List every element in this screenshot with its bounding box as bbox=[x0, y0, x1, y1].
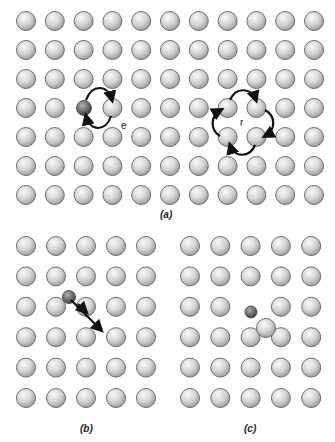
ring-arrow-top-icon bbox=[230, 90, 256, 100]
lattice-atom bbox=[107, 328, 126, 347]
lattice-atom bbox=[74, 41, 93, 60]
lattice-atom bbox=[305, 186, 324, 205]
lattice-atom bbox=[77, 237, 96, 256]
lattice-atom bbox=[132, 70, 151, 89]
lattice-atom bbox=[161, 99, 180, 118]
lattice-atom bbox=[181, 389, 200, 408]
lattice-atom bbox=[137, 297, 156, 316]
lattice-atom bbox=[161, 128, 180, 147]
lattice-atom bbox=[47, 358, 66, 377]
substitutional-solute-atom bbox=[245, 306, 257, 318]
self-interstitial-atom bbox=[257, 319, 276, 338]
lattice-atom bbox=[107, 297, 126, 316]
lattice-atom bbox=[132, 41, 151, 60]
lattice-atom bbox=[181, 237, 200, 256]
lattice-atom bbox=[77, 267, 96, 286]
lattice-atom bbox=[77, 389, 96, 408]
lattice-atom bbox=[247, 157, 266, 176]
lattice-atom bbox=[47, 328, 66, 347]
lattice-atom bbox=[74, 186, 93, 205]
lattice-atom bbox=[302, 358, 321, 377]
lattice-atom bbox=[17, 70, 36, 89]
lattice-atom bbox=[276, 12, 295, 31]
lattice-atom bbox=[132, 128, 151, 147]
lattice-atom bbox=[211, 328, 230, 347]
lattice-atom bbox=[211, 267, 230, 286]
panel-c-label: (c) bbox=[244, 423, 257, 434]
lattice-atom bbox=[305, 128, 324, 147]
lattice-atom bbox=[17, 328, 36, 347]
lattice-atom bbox=[218, 70, 237, 89]
lattice-atom bbox=[137, 267, 156, 286]
lattice-atom bbox=[181, 358, 200, 377]
lattice-atom bbox=[218, 186, 237, 205]
lattice-atom bbox=[137, 237, 156, 256]
lattice-atom bbox=[218, 157, 237, 176]
lattice-atom bbox=[47, 237, 66, 256]
lattice-atom bbox=[45, 12, 64, 31]
lattice-atom bbox=[247, 41, 266, 60]
lattice-atom bbox=[211, 237, 230, 256]
panel-a-label: (a) bbox=[160, 209, 173, 220]
lattice-atom bbox=[302, 328, 321, 347]
lattice-atom bbox=[103, 99, 122, 118]
lattice-atom bbox=[45, 99, 64, 118]
lattice-atom bbox=[271, 297, 290, 316]
lattice-atom bbox=[241, 358, 260, 377]
lattice-atom bbox=[17, 358, 36, 377]
lattice-atom bbox=[189, 41, 208, 60]
lattice-atom bbox=[241, 267, 260, 286]
solute-atom bbox=[77, 101, 92, 116]
lattice-atom bbox=[218, 99, 237, 118]
lattice-atom bbox=[107, 267, 126, 286]
lattice-atom bbox=[17, 128, 36, 147]
lattice-atom bbox=[17, 41, 36, 60]
lattice-atom bbox=[103, 41, 122, 60]
lattice-atom bbox=[107, 358, 126, 377]
lattice-atom bbox=[302, 297, 321, 316]
lattice-atom bbox=[17, 99, 36, 118]
lattice-atom bbox=[161, 186, 180, 205]
lattice-atom bbox=[247, 99, 266, 118]
lattice-atom bbox=[241, 237, 260, 256]
lattice-atom bbox=[47, 297, 66, 316]
lattice-atom bbox=[181, 328, 200, 347]
lattice-atom bbox=[241, 389, 260, 408]
lattice-atom bbox=[247, 186, 266, 205]
lattice-atom bbox=[137, 358, 156, 377]
lattice-atom bbox=[137, 389, 156, 408]
lattice-atom bbox=[132, 12, 151, 31]
lattice-atom bbox=[189, 70, 208, 89]
lattice-atom bbox=[276, 186, 295, 205]
lattice-atom bbox=[77, 358, 96, 377]
lattice-atom bbox=[74, 157, 93, 176]
lattice-atom bbox=[276, 157, 295, 176]
lattice-atom bbox=[103, 12, 122, 31]
lattice-atom bbox=[17, 267, 36, 286]
lattice-atom bbox=[47, 267, 66, 286]
lattice-atom bbox=[74, 70, 93, 89]
lattice-atom bbox=[305, 157, 324, 176]
lattice-atom bbox=[132, 99, 151, 118]
diffusion-diagram: e r (a) (b) (c) bbox=[0, 0, 335, 442]
lattice-atom bbox=[211, 358, 230, 377]
lattice-atom bbox=[161, 70, 180, 89]
lattice-atom bbox=[107, 237, 126, 256]
lattice-atom bbox=[17, 297, 36, 316]
lattice-atom bbox=[161, 157, 180, 176]
lattice-atom bbox=[218, 128, 237, 147]
lattice-atom bbox=[137, 328, 156, 347]
lattice-atom bbox=[132, 186, 151, 205]
label-r: r bbox=[240, 117, 244, 128]
lattice-atom bbox=[74, 128, 93, 147]
lattice-atom bbox=[271, 389, 290, 408]
lattice-atom bbox=[189, 99, 208, 118]
lattice-atom bbox=[218, 12, 237, 31]
lattice-atom bbox=[271, 237, 290, 256]
lattice-atom bbox=[305, 70, 324, 89]
ring-arrow-right-icon bbox=[265, 110, 273, 136]
lattice-atom bbox=[276, 128, 295, 147]
lattice-atom bbox=[132, 157, 151, 176]
lattice-atom bbox=[45, 70, 64, 89]
lattice-atom bbox=[17, 237, 36, 256]
